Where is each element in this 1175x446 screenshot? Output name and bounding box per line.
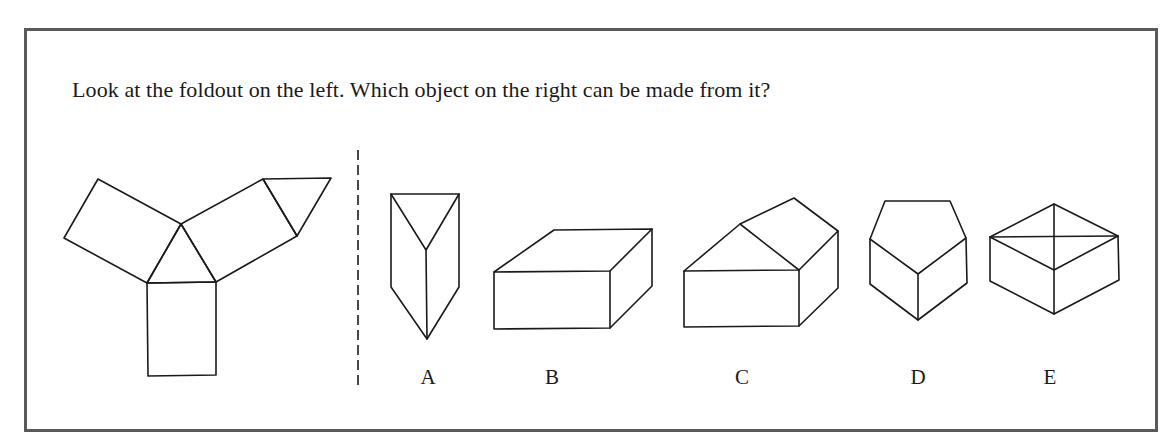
foldout-net bbox=[64, 178, 331, 376]
option-label-a[interactable]: A bbox=[420, 365, 435, 390]
option-label-e[interactable]: E bbox=[1044, 365, 1057, 390]
option-edge bbox=[391, 194, 459, 339]
option-edge bbox=[684, 198, 838, 327]
option-edge bbox=[870, 238, 966, 274]
option-label-c[interactable]: C bbox=[735, 365, 749, 390]
option-c-shape[interactable] bbox=[684, 198, 838, 327]
option-e-shape[interactable] bbox=[990, 204, 1119, 314]
option-b-shape[interactable] bbox=[494, 229, 652, 329]
foldout-face-left-rectangle bbox=[64, 179, 181, 283]
option-label-d[interactable]: D bbox=[910, 365, 925, 390]
foldout-face-center-triangle bbox=[147, 224, 216, 283]
answer-options bbox=[391, 194, 1119, 339]
option-edge bbox=[494, 229, 652, 329]
foldout-face-right-small-triangle bbox=[263, 178, 331, 236]
option-d-shape[interactable] bbox=[870, 201, 967, 320]
figure-canvas bbox=[0, 0, 1175, 446]
option-label-b[interactable]: B bbox=[545, 365, 559, 390]
option-edge bbox=[426, 250, 427, 339]
foldout-face-bottom-rectangle bbox=[147, 282, 216, 376]
option-edge bbox=[494, 229, 652, 272]
option-edge bbox=[391, 194, 459, 250]
foldout-face-right-rectangle bbox=[181, 179, 297, 282]
option-edge bbox=[740, 224, 799, 270]
option-a-shape[interactable] bbox=[391, 194, 459, 339]
